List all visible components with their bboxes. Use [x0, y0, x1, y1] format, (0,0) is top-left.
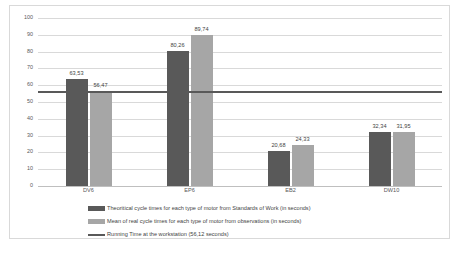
- x-axis-tick-label: DW10: [384, 188, 400, 194]
- bar-value-label: 24,33: [296, 137, 310, 143]
- legend-swatch-icon-theoretical: [88, 206, 105, 211]
- bar: [66, 79, 88, 186]
- legend-label-mean-real: Mean of real cycle times for each type o…: [107, 219, 301, 225]
- y-axis-tick-label: 40: [27, 116, 33, 121]
- y-axis-tick-label: 80: [27, 49, 33, 54]
- chart-frame: 0102030405060708090100 63,5356,4780,2689…: [9, 5, 450, 239]
- y-axis-tick-label: 30: [27, 133, 33, 138]
- y-axis-tick-label: 100: [24, 15, 33, 20]
- bar-value-label: 56,47: [94, 83, 108, 89]
- bar: [268, 151, 290, 186]
- legend-item-mean-real: Mean of real cycle times for each type o…: [88, 215, 418, 228]
- bar: [167, 51, 189, 186]
- legend-label-running-time: Running Time at the workstation (56,12 s…: [107, 232, 229, 238]
- y-axis-tick-label: 20: [27, 150, 33, 155]
- bar-value-label: 20,68: [272, 143, 286, 149]
- legend-swatch-icon-mean-real: [88, 219, 105, 224]
- legend-label-theoretical: Theoritical cycle times for each type of…: [107, 206, 311, 212]
- bar: [90, 91, 112, 186]
- bar: [292, 145, 314, 186]
- bar-value-label: 80,26: [171, 43, 185, 49]
- y-axis-tick-label: 90: [27, 32, 33, 37]
- gridline: [38, 186, 442, 187]
- legend-item-theoretical: Theoritical cycle times for each type of…: [88, 202, 418, 215]
- bar-value-label: 63,53: [70, 71, 84, 77]
- bar: [191, 35, 213, 186]
- y-axis-tick-label: 50: [27, 99, 33, 104]
- y-axis-tick-label: 0: [30, 183, 33, 188]
- x-axis-tick-label: EP6: [184, 188, 195, 194]
- bar-value-label: 89,74: [195, 27, 209, 33]
- y-axis: 0102030405060708090100: [10, 18, 36, 186]
- bar-value-label: 31,95: [397, 124, 411, 130]
- bar-value-label: 32,34: [373, 124, 387, 130]
- x-axis-tick-label: EB2: [285, 188, 296, 194]
- legend-line-icon-running-time: [88, 234, 105, 236]
- running-time-reference-line: [38, 91, 442, 94]
- y-axis-tick-label: 60: [27, 82, 33, 87]
- chart-legend: Theoritical cycle times for each type of…: [88, 202, 418, 241]
- plot-area: 63,5356,4780,2689,7420,6824,3332,3431,95: [38, 18, 442, 186]
- bar: [393, 132, 415, 186]
- x-axis-tick-label: DV6: [83, 188, 94, 194]
- y-axis-tick-label: 70: [27, 66, 33, 71]
- bar: [369, 132, 391, 186]
- y-axis-tick-label: 10: [27, 166, 33, 171]
- x-axis: DV6EP6EB2DW10: [38, 188, 442, 200]
- legend-item-running-time: Running Time at the workstation (56,12 s…: [88, 228, 418, 241]
- bars-layer: 63,5356,4780,2689,7420,6824,3332,3431,95: [38, 18, 442, 186]
